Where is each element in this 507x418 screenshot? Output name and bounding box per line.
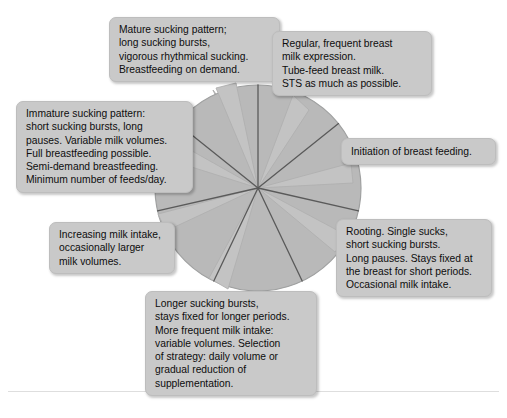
callout-longer-sucking-bursts: Longer sucking bursts, stays fixed for l… [145, 291, 317, 396]
callout-mature-sucking-pattern: Mature sucking pattern; long sucking bur… [109, 17, 280, 82]
callout-rooting-single-sucks: Rooting. Single sucks, short sucking bur… [336, 219, 492, 297]
callout-regular-breast-milk-expression: Regular, frequent breast milk expression… [272, 31, 432, 96]
callout-immature-sucking-pattern: Immature sucking pattern: short sucking … [16, 101, 193, 193]
callout-initiation-of-breast-feeding: Initiation of breast feeding. [341, 138, 496, 165]
callout-increasing-milk-intake: Increasing milk intake, occasionally lar… [49, 222, 175, 274]
breastfeeding-progression-figure: Mature sucking pattern; long sucking bur… [0, 0, 507, 418]
